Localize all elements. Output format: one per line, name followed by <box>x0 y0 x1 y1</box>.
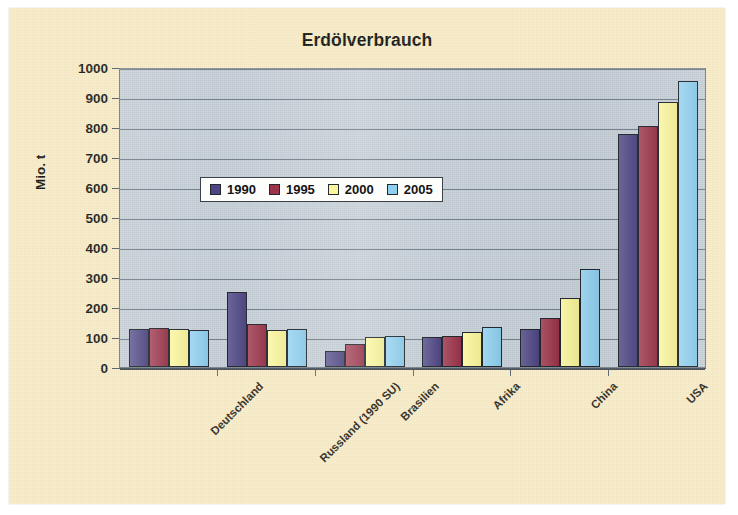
bar <box>189 330 209 367</box>
bar-shading <box>268 331 286 366</box>
bar-shading <box>619 135 637 366</box>
bar-shading <box>190 331 208 366</box>
y-axis-tick-label: 200 <box>64 301 108 316</box>
y-tick-mark <box>112 158 119 159</box>
bar <box>638 126 658 368</box>
bar-shading <box>581 270 599 366</box>
bar-shading <box>679 82 697 367</box>
plot-area <box>119 68 706 368</box>
legend-label: 2005 <box>404 182 433 197</box>
legend-label: 1990 <box>227 182 256 197</box>
y-axis-tick-label: 700 <box>64 151 108 166</box>
bar-shading <box>228 293 246 366</box>
bar <box>422 337 442 367</box>
chart-title: Erdölverbrauch <box>9 30 725 51</box>
x-axis-category-label: USA <box>684 380 710 406</box>
bar-shading <box>288 330 306 366</box>
bar <box>482 327 502 367</box>
x-axis-category-label: Brasilien <box>398 380 441 423</box>
x-axis-category-label: Deutschland <box>208 380 265 437</box>
gridline <box>120 69 705 70</box>
bar <box>520 329 540 367</box>
legend-label: 2000 <box>345 182 374 197</box>
bar-shading <box>170 330 188 366</box>
bar <box>287 329 307 367</box>
gridline <box>120 129 705 130</box>
bar-shading <box>248 325 266 366</box>
bar-shading <box>483 328 501 366</box>
bar <box>618 134 638 367</box>
bar <box>580 269 600 367</box>
y-tick-mark <box>112 368 119 369</box>
y-axis-tick-label: 500 <box>64 211 108 226</box>
y-tick-mark <box>112 338 119 339</box>
y-tick-mark <box>112 98 119 99</box>
y-tick-mark <box>112 308 119 309</box>
bar-shading <box>346 345 364 366</box>
bar-shading <box>659 103 677 366</box>
bar-shading <box>639 127 657 367</box>
bar <box>540 318 560 368</box>
bar <box>365 337 385 367</box>
bar <box>227 292 247 367</box>
legend-item: 1995 <box>269 182 315 197</box>
legend-swatch <box>387 184 398 195</box>
bar <box>345 344 365 367</box>
bar-shading <box>521 330 539 366</box>
bar-shading <box>443 337 461 366</box>
bar <box>385 336 405 367</box>
y-axis-tick-label: 0 <box>64 361 108 376</box>
bar-shading <box>150 329 168 366</box>
y-axis-tick-label: 900 <box>64 91 108 106</box>
gridline <box>120 369 705 370</box>
bar <box>325 351 345 368</box>
bar <box>267 330 287 367</box>
bar <box>462 332 482 367</box>
y-axis-tick-label: 800 <box>64 121 108 136</box>
legend-swatch <box>210 184 221 195</box>
bar-shading <box>366 338 384 366</box>
bar <box>149 328 169 367</box>
gridline <box>120 99 705 100</box>
scanned-page: Erdölverbrauch Mio. t 1990199520002005 0… <box>9 8 725 504</box>
chart-legend: 1990199520002005 <box>200 177 443 202</box>
y-tick-mark <box>112 188 119 189</box>
y-tick-mark <box>112 278 119 279</box>
y-tick-mark <box>112 128 119 129</box>
bar-shading <box>326 352 344 367</box>
y-axis-tick-label: 400 <box>64 241 108 256</box>
bar-shading <box>561 299 579 366</box>
bar-shading <box>463 333 481 366</box>
bar <box>678 81 698 368</box>
bar <box>560 298 580 367</box>
bar <box>658 102 678 367</box>
x-axis-category-label: China <box>589 380 620 411</box>
x-axis-category-label: Russland (1990 SU) <box>317 380 401 464</box>
y-tick-mark <box>112 248 119 249</box>
bar <box>442 336 462 367</box>
legend-item: 2000 <box>328 182 374 197</box>
bar <box>247 324 267 367</box>
bar <box>129 329 149 367</box>
legend-swatch <box>269 184 280 195</box>
bar <box>169 329 189 367</box>
y-axis-title: Mio. t <box>33 155 48 190</box>
legend-item: 1990 <box>210 182 256 197</box>
bar-shading <box>541 319 559 367</box>
bar-shading <box>130 330 148 366</box>
bar-shading <box>423 338 441 366</box>
y-tick-mark <box>112 68 119 69</box>
x-axis-category-label: Afrika <box>491 380 523 412</box>
legend-label: 1995 <box>286 182 315 197</box>
y-axis-tick-label: 300 <box>64 271 108 286</box>
y-tick-mark <box>112 218 119 219</box>
y-axis-tick-label: 100 <box>64 331 108 346</box>
legend-swatch <box>328 184 339 195</box>
y-axis-tick-label: 600 <box>64 181 108 196</box>
legend-item: 2005 <box>387 182 433 197</box>
bar-shading <box>386 337 404 366</box>
y-axis-tick-label: 1000 <box>64 61 108 76</box>
